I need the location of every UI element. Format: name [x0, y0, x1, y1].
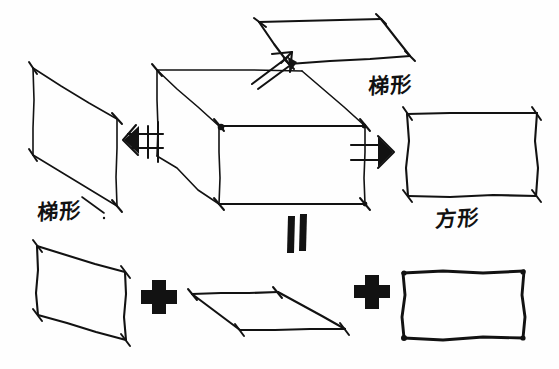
- result-parallelogram: [188, 287, 349, 336]
- result-trapezoid: [33, 240, 130, 346]
- label-right-square: 方形: [435, 201, 481, 233]
- equals-operator: [287, 214, 307, 253]
- sketch-canvas: 梯形 梯形 方形: [0, 0, 559, 369]
- label-left-trapezoid: 梯形: [36, 193, 81, 226]
- plus-operator-left: [141, 280, 177, 314]
- top-face-parallelogram: [254, 14, 415, 69]
- label-top-trapezoid: 梯形: [367, 67, 412, 100]
- result-square: [401, 269, 526, 341]
- label-pointer-stroke: [82, 197, 105, 219]
- right-double-arrow-icon: [351, 136, 394, 168]
- right-face-square: [403, 107, 541, 202]
- plus-operator-right: [354, 275, 390, 309]
- left-face-trapezoid: [29, 62, 122, 212]
- sketch-drawing: [0, 0, 559, 369]
